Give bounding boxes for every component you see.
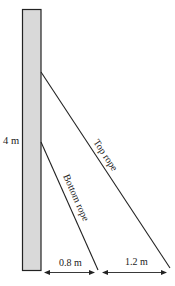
post-height-label: 4 m bbox=[3, 135, 19, 146]
rope-post-diagram: 4 m Top rope Bottom rope 0.8 m 1.2 m bbox=[0, 0, 175, 286]
dimension-label-0-8m: 0.8 m bbox=[59, 257, 82, 268]
bottom-rope-line bbox=[41, 142, 98, 270]
vertical-post bbox=[23, 10, 42, 271]
dimension-label-1-2m: 1.2 m bbox=[125, 256, 148, 267]
top-rope-line bbox=[41, 72, 170, 268]
